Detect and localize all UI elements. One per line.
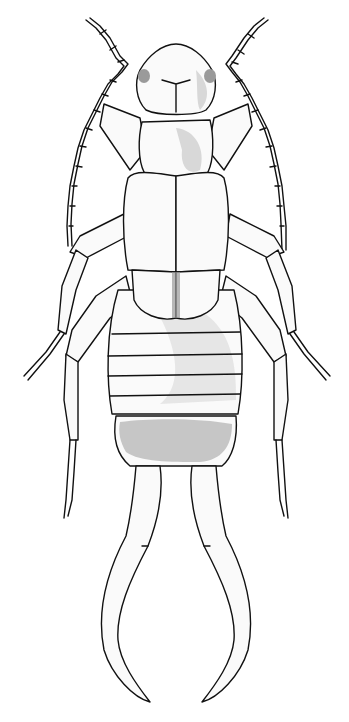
earwig-drawing: [0, 0, 349, 722]
tegmina: [124, 173, 229, 273]
earwig-illustration: [0, 0, 349, 722]
pronotum: [139, 120, 213, 180]
abdomen: [108, 270, 242, 466]
head: [137, 44, 216, 115]
cerci: [101, 466, 250, 702]
